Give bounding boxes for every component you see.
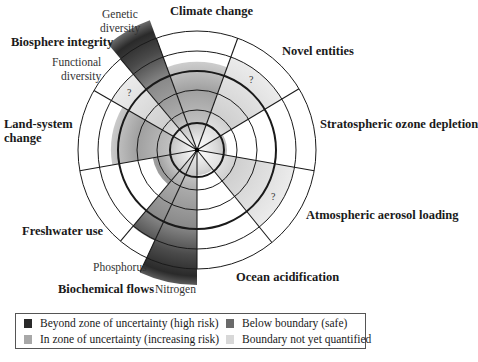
label-freshwater-use: Freshwater use <box>22 224 103 238</box>
legend-item-uncertainty: In zone of uncertainty (increasing risk) <box>24 333 219 345</box>
label-nitrogen: Nitrogen <box>155 282 196 296</box>
unknown-mark-novel-entities: ? <box>249 74 254 85</box>
label-functional-line1: Functional <box>52 55 101 69</box>
label-climate-change: Climate change <box>170 4 253 18</box>
unknown-mark-aerosol: ? <box>271 191 276 202</box>
label-genetic-line1: Genetic <box>102 7 138 21</box>
label-ozone: Stratospheric ozone depletion <box>320 117 478 131</box>
label-land-system-line1: Land-system <box>4 117 73 131</box>
swatch-not-quantified <box>226 335 234 344</box>
legend-item-high-risk: Beyond zone of uncertainty (high risk) <box>24 317 219 329</box>
label-novel-entities: Novel entities <box>282 44 354 58</box>
label-ocean-acidification: Ocean acidification <box>236 270 339 284</box>
label-genetic-line2: diversity <box>100 21 140 35</box>
sector-aerosol <box>197 150 295 227</box>
legend-item-safe: Below boundary (safe) <box>226 317 347 329</box>
label-biochemical-flows: Biochemical flows <box>58 282 154 296</box>
swatch-uncertainty <box>24 335 32 344</box>
label-aerosol: Atmospheric aerosol loading <box>306 208 459 222</box>
label-biosphere-integrity: Biosphere integrity <box>11 35 113 49</box>
label-phosphorus: Phosphorus <box>93 260 147 274</box>
unknown-mark-functional-diversity: ? <box>127 87 132 98</box>
label-functional-line2: diversity <box>61 69 101 83</box>
label-land-system-line2: change <box>4 131 42 145</box>
legend-item-not-quantified: Boundary not yet quantified <box>226 333 371 345</box>
legend: Beyond zone of uncertainty (high risk) B… <box>15 313 366 349</box>
swatch-safe <box>226 319 234 328</box>
swatch-high-risk <box>24 319 32 328</box>
